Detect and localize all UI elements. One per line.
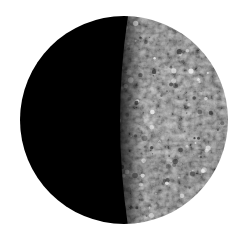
- crater: [188, 69, 193, 74]
- crater: [180, 194, 184, 198]
- crater: [217, 129, 219, 131]
- crater: [170, 66, 173, 69]
- crater: [209, 111, 213, 115]
- crater: [150, 149, 152, 151]
- crater: [146, 215, 148, 217]
- crater: [192, 96, 196, 100]
- crater: [171, 68, 176, 73]
- crater: [151, 135, 153, 137]
- crater: [190, 171, 195, 176]
- crater: [173, 83, 178, 88]
- crater: [181, 60, 184, 63]
- crater: [186, 99, 188, 101]
- crater: [201, 169, 205, 173]
- crater: [150, 146, 153, 149]
- crater: [173, 159, 178, 164]
- crater: [153, 101, 154, 102]
- crater: [153, 75, 154, 76]
- crater: [195, 142, 197, 144]
- crater: [166, 164, 171, 169]
- crater: [164, 102, 165, 103]
- planet-svg: [0, 0, 243, 245]
- crater: [186, 145, 189, 148]
- crater: [155, 193, 156, 194]
- crater: [198, 81, 200, 83]
- crater: [178, 148, 183, 153]
- crater: [171, 78, 176, 83]
- crater: [186, 112, 188, 114]
- crater: [168, 155, 170, 157]
- crater: [184, 131, 186, 133]
- crater: [220, 121, 224, 125]
- crater: [142, 135, 148, 141]
- crater: [160, 95, 162, 97]
- crater: [178, 176, 180, 178]
- crater: [177, 49, 182, 54]
- crater: [204, 97, 208, 101]
- crater: [170, 161, 171, 162]
- crater: [152, 153, 153, 154]
- crater: [193, 137, 195, 139]
- crater: [197, 78, 200, 81]
- crater: [207, 72, 209, 74]
- planet-image: Mercury, partially illuminated planet: [0, 0, 243, 245]
- crater: [149, 213, 154, 218]
- crater: [152, 70, 156, 74]
- crater: [189, 187, 191, 189]
- crater: [197, 110, 202, 115]
- crater: [205, 149, 209, 153]
- crater: [144, 40, 148, 44]
- crater: [186, 49, 190, 53]
- crater: [149, 207, 151, 209]
- crater: [187, 103, 190, 106]
- crater: [150, 110, 155, 115]
- crater: [165, 182, 169, 186]
- crater: [166, 90, 168, 92]
- crater: [197, 137, 200, 140]
- crater: [153, 57, 155, 59]
- crater: [200, 156, 202, 158]
- crater: [158, 140, 161, 143]
- crater: [150, 125, 154, 129]
